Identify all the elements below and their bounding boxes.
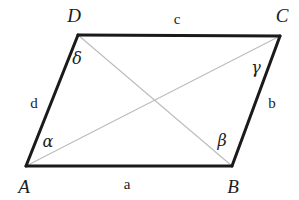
vertex-label-d: D [67,6,81,25]
side-label-b: b [268,96,276,111]
angle-label-beta: β [217,133,226,149]
angle-label-alpha: α [43,134,54,150]
diagonal-ac [26,36,280,166]
diagonals-group [26,35,280,166]
figure-canvas [0,0,299,200]
edge-cd [78,35,280,36]
vertex-label-b: B [227,177,239,196]
side-label-c: c [174,12,181,27]
angle-label-gamma: γ [251,60,261,76]
vertex-label-c: C [276,6,289,25]
side-label-a: a [124,177,131,192]
parallelogram-diagram: A B C D a b c d α β γ δ [0,0,299,200]
vertex-label-a: A [18,177,30,196]
side-label-d: d [30,96,38,111]
diagonal-bd [78,35,232,166]
angle-label-delta: δ [72,51,82,67]
